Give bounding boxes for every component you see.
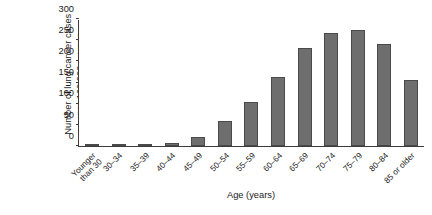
bar	[404, 80, 418, 146]
bar-slot	[238, 20, 265, 146]
x-label-slot: 55–59	[238, 149, 265, 195]
x-tick-label: 55–59	[235, 151, 258, 174]
y-tick-mark	[76, 18, 79, 19]
y-tick-label: 200	[58, 47, 79, 56]
bar-slot	[79, 20, 106, 146]
x-label-slot: 70–74	[317, 149, 344, 195]
bar-slot	[212, 20, 239, 146]
x-tick-label: 70–74	[315, 151, 338, 174]
bar	[351, 30, 365, 146]
bar-slot	[159, 20, 186, 146]
x-label-slot: 50–54	[211, 149, 238, 195]
x-tick-label: 65–69	[288, 151, 311, 174]
x-tick-label: 40–44	[155, 151, 178, 174]
x-tick-label: 75–79	[341, 151, 364, 174]
x-tick-label: 45–49	[182, 151, 205, 174]
x-label-slot: 35–39	[131, 149, 158, 195]
x-tick-label: 35–39	[128, 151, 151, 174]
bar	[377, 44, 391, 146]
bar-slot	[106, 20, 133, 146]
y-tick-label: 0	[69, 132, 79, 141]
x-label-slot: 40–44	[158, 149, 185, 195]
x-tick-label: Youngerthan 30	[70, 151, 105, 186]
x-label-slot: 65–69	[291, 149, 318, 195]
x-label-slot: 60–64	[264, 149, 291, 195]
y-tick-label: 50	[64, 111, 79, 120]
bar	[85, 144, 99, 146]
y-tick-label: 250	[58, 26, 79, 35]
bar	[298, 48, 312, 146]
x-label-slot: Youngerthan 30	[78, 149, 105, 195]
plot-area: 050100150200250300	[78, 20, 424, 147]
x-tick-label: 50–54	[208, 151, 231, 174]
bar-slot	[371, 20, 398, 146]
x-label-slot: 85 or older	[397, 149, 424, 195]
bar	[165, 143, 179, 146]
y-tick-label: 100	[58, 90, 79, 99]
x-axis-tick-labels: Youngerthan 3030–3435–3940–4445–4950–545…	[78, 149, 424, 195]
x-tick-label: 30–34	[102, 151, 125, 174]
y-tick-label: 150	[58, 69, 79, 78]
bar-slot	[185, 20, 212, 146]
bar-slot	[397, 20, 424, 146]
bar-slot	[265, 20, 292, 146]
bar-slot	[318, 20, 345, 146]
x-label-slot: 45–49	[184, 149, 211, 195]
lung-cancer-incidence-bar-chart: Number of lung cancer cases per 100,000 …	[0, 0, 432, 215]
x-axis-title: Age (years)	[78, 190, 424, 200]
bar	[324, 33, 338, 146]
bar-slot	[132, 20, 159, 146]
x-tick-label: 80–84	[368, 151, 391, 174]
bar-series	[79, 20, 424, 146]
bar-slot	[291, 20, 318, 146]
bar	[112, 144, 126, 146]
x-label-slot: 75–79	[344, 149, 371, 195]
bar	[191, 137, 205, 146]
x-label-slot: 30–34	[105, 149, 132, 195]
bar	[244, 102, 258, 146]
bar	[138, 144, 152, 146]
y-tick-label: 300	[58, 5, 79, 14]
x-tick-label: 60–64	[261, 151, 284, 174]
bar-slot	[344, 20, 371, 146]
bar	[218, 121, 232, 146]
bar	[271, 77, 285, 146]
